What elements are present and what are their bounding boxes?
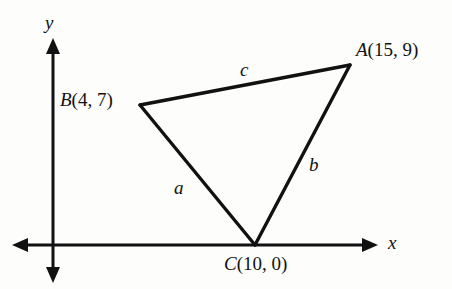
triangle-side-b (255, 65, 350, 245)
side-label-c: c (240, 60, 248, 79)
y-axis-positive-arrowhead (46, 38, 60, 54)
vertex-label-a: A(15, 9) (356, 40, 418, 59)
vertex-label-b: B(4, 7) (60, 90, 113, 109)
vertex-b-name: B (60, 89, 72, 110)
x-axis-negative-arrowhead (12, 238, 28, 252)
y-axis-negative-arrowhead (46, 267, 60, 283)
axes-group (12, 38, 378, 283)
vertex-c-coords: (10, 0) (237, 253, 288, 274)
x-axis-label: x (388, 233, 396, 252)
side-label-b: b (309, 155, 319, 174)
vertex-label-c: C(10, 0) (224, 254, 287, 273)
y-axis-label: y (45, 13, 53, 32)
vertex-a-name: A (356, 39, 368, 60)
triangle-side-a (140, 105, 255, 245)
vertex-a-coords: (15, 9) (368, 39, 419, 60)
side-label-a: a (174, 178, 184, 197)
vertex-b-coords: (4, 7) (72, 89, 113, 110)
geometry-figure: A(15, 9) B(4, 7) C(10, 0) a b c x y (0, 0, 452, 289)
vertex-c-name: C (224, 253, 237, 274)
x-axis-positive-arrowhead (362, 238, 378, 252)
triangle-group (140, 65, 350, 245)
